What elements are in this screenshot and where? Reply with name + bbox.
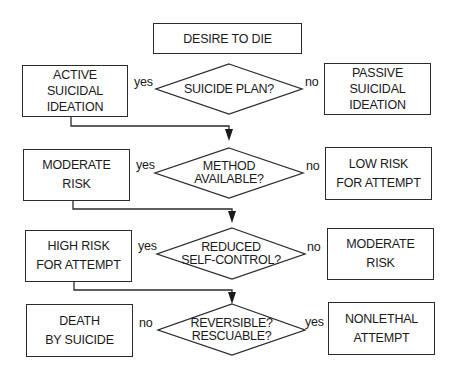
question-line: AVAILABLE? xyxy=(194,173,264,186)
outcome-line: RISK xyxy=(62,175,90,194)
outcome-box-active-suicidal-ideation: ACTIVE SUICIDAL IDEATION xyxy=(22,65,128,117)
outcome-line: SUICIDAL xyxy=(47,83,103,99)
arrowhead-3 xyxy=(228,292,236,304)
outcome-box-death-by-suicide: DEATH BY SUICIDE xyxy=(26,304,133,357)
start-label: DESIRE TO DIE xyxy=(183,31,272,47)
edge-label-yes: yes xyxy=(136,159,155,172)
edge-label-no: no xyxy=(139,317,153,330)
outcome-box-nonlethal-attempt: NONLETHAL ATTEMPT xyxy=(328,302,435,355)
outcome-line: BY SUICIDE xyxy=(45,331,114,350)
outcome-line: FOR ATTEMPT xyxy=(336,174,420,193)
arrowhead-2 xyxy=(228,211,236,223)
outcome-box-moderate-risk-1: MODERATE RISK xyxy=(23,149,130,201)
outcome-line: MODERATE xyxy=(42,156,110,175)
question-line: REDUCED xyxy=(201,241,261,254)
connector-2 xyxy=(73,201,232,215)
edge-label-yes: yes xyxy=(305,316,324,329)
connector-3 xyxy=(74,282,232,296)
outcome-box-moderate-risk-2: MODERATE RISK xyxy=(327,228,434,280)
outcome-line: ACTIVE xyxy=(53,67,97,83)
outcome-line: NONLETHAL xyxy=(345,310,418,329)
edge-label-no: no xyxy=(306,160,320,173)
arrowhead-1 xyxy=(225,129,233,141)
edge-label-no: no xyxy=(307,241,321,254)
outcome-line: RISK xyxy=(366,254,394,273)
question-line: RESCUABLE? xyxy=(192,330,272,343)
outcome-line: IDEATION xyxy=(47,99,104,115)
question-line: SUICIDE PLAN? xyxy=(184,83,274,96)
outcome-line: LOW RISK xyxy=(349,155,409,174)
outcome-line: MODERATE xyxy=(346,235,414,254)
outcome-line: ATTEMPT xyxy=(353,329,409,348)
outcome-line: PASSIVE xyxy=(352,65,403,81)
edge-label-yes: yes xyxy=(134,76,153,89)
start-box-desire-to-die: DESIRE TO DIE xyxy=(153,23,302,54)
outcome-box-passive-suicidal-ideation: PASSIVE SUICIDAL IDEATION xyxy=(324,63,431,115)
outcome-box-high-risk-for-attempt: HIGH RISK FOR ATTEMPT xyxy=(25,230,132,282)
outcome-box-low-risk-for-attempt: LOW RISK FOR ATTEMPT xyxy=(325,147,432,200)
connector-1 xyxy=(71,117,229,134)
question-line: SELF-CONTROL? xyxy=(181,254,281,267)
outcome-line: DEATH xyxy=(59,312,99,331)
edge-label-no: no xyxy=(305,76,319,89)
outcome-line: HIGH RISK xyxy=(47,237,109,256)
edge-label-yes: yes xyxy=(138,240,157,253)
question-line: REVERSIBLE? xyxy=(190,317,272,330)
decision-text-reduced-self-control: REDUCED SELF-CONTROL? xyxy=(157,228,305,279)
decision-text-reversible-rescuable: REVERSIBLE? RESCUABLE? xyxy=(158,304,305,355)
outcome-line: FOR ATTEMPT xyxy=(36,256,120,275)
decision-text-suicide-plan: SUICIDE PLAN? xyxy=(156,64,302,114)
outcome-line: IDEATION xyxy=(349,97,406,113)
outcome-line: SUICIDAL xyxy=(349,81,405,97)
decision-text-method-available: METHOD AVAILABLE? xyxy=(155,148,303,198)
